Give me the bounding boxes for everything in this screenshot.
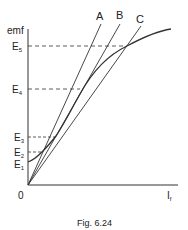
line-c <box>28 26 141 185</box>
origin-label: 0 <box>18 190 24 201</box>
e2-label: E2 <box>14 147 25 159</box>
magnetization-curve <box>28 29 171 162</box>
e1-label: E1 <box>14 159 25 171</box>
e5-label: E5 <box>12 41 23 53</box>
x-axis-label: If <box>167 190 172 202</box>
e3-label: E3 <box>14 132 25 144</box>
e4-label: E4 <box>12 84 23 96</box>
label-b: B <box>116 9 123 21</box>
label-a: A <box>96 10 104 22</box>
label-c: C <box>136 13 144 25</box>
y-axis-label: emf <box>7 25 24 36</box>
figure-caption: Fig. 6.24 <box>77 218 112 228</box>
magnetization-curve-diagram: A B C emf 0 If E5 E4 E3 E2 E1 Fig. 6.24 <box>0 0 188 230</box>
line-a <box>28 24 101 185</box>
